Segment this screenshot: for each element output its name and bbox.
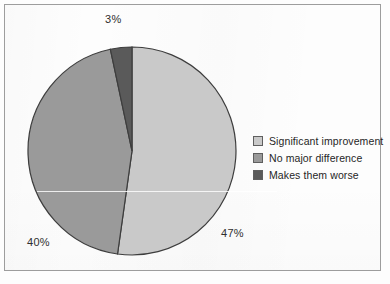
pie-chart-plot — [27, 46, 237, 256]
chart-frame: 3% 47% 40% Significant improvement No ma… — [4, 4, 381, 271]
pie-slice-significant-improvement[interactable] — [118, 47, 236, 255]
legend-item-no-major-difference[interactable]: No major difference — [253, 150, 385, 165]
legend-item-significant-improvement[interactable]: Significant improvement — [253, 133, 385, 148]
data-label-makes-them-worse: 3% — [105, 13, 122, 25]
legend-swatch-icon-significant-improvement — [253, 136, 263, 146]
legend-item-makes-them-worse[interactable]: Makes them worse — [253, 167, 385, 182]
legend-label-makes-them-worse: Makes them worse — [269, 169, 359, 181]
data-label-significant-improvement: 47% — [221, 227, 244, 239]
data-label-no-major-difference: 40% — [27, 236, 50, 248]
legend-label-no-major-difference: No major difference — [269, 152, 362, 164]
chart-legend: Significant improvement No major differe… — [253, 133, 385, 184]
pie-chart-figure: 3% 47% 40% Significant improvement No ma… — [0, 0, 390, 284]
pie-svg — [27, 46, 237, 256]
legend-label-significant-improvement: Significant improvement — [269, 135, 383, 147]
legend-swatch-icon-makes-them-worse — [253, 170, 263, 180]
legend-swatch-icon-no-major-difference — [253, 153, 263, 163]
